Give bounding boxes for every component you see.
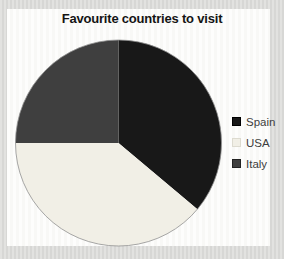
legend-item-italy: Italy: [232, 153, 275, 174]
legend-label-spain: Spain: [246, 116, 275, 128]
legend-label-italy: Italy: [246, 158, 267, 170]
legend-swatch-spain: [232, 117, 241, 126]
chart-title: Favourite countries to visit: [0, 11, 284, 26]
legend-item-usa: USA: [232, 132, 275, 153]
legend-item-spain: Spain: [232, 111, 275, 132]
legend-label-usa: USA: [246, 137, 270, 149]
legend-swatch-italy: [232, 159, 241, 168]
scan-background: Favourite countries to visit Spain USA I…: [0, 0, 284, 259]
legend: Spain USA Italy: [232, 111, 275, 174]
legend-swatch-usa: [232, 138, 241, 147]
pie-slice-italy: [16, 40, 119, 143]
